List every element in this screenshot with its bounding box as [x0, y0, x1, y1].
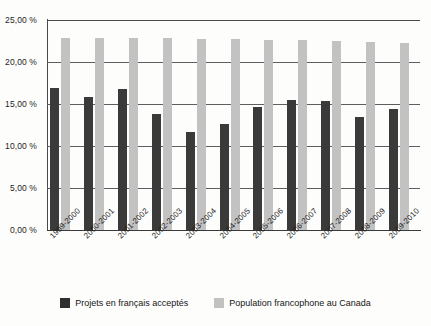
bar-group	[152, 20, 186, 230]
legend-item: Population francophone au Canada	[214, 298, 371, 308]
y-axis-tick-labels: 0,00 %5,00 %10,00 %15,00 %20,00 %25,00 %	[0, 0, 43, 326]
y-tick-label: 10,00 %	[5, 141, 37, 151]
bar-chart-figure: 0,00 %5,00 %10,00 %15,00 %20,00 %25,00 %…	[0, 0, 431, 326]
bar-group	[253, 20, 287, 230]
bar-group	[50, 20, 84, 230]
legend-label: Projets en français acceptés	[75, 298, 188, 308]
bar-group	[118, 20, 152, 230]
bar-population	[61, 38, 70, 230]
legend-label: Population francophone au Canada	[229, 298, 371, 308]
y-tick-label: 15,00 %	[5, 99, 37, 109]
bar-projets	[253, 107, 262, 230]
bar-population	[366, 42, 375, 230]
bar-population	[298, 40, 307, 230]
bar-group	[355, 20, 389, 230]
y-tick-label: 0,00 %	[10, 225, 37, 235]
bar-population	[163, 38, 172, 230]
bar-projets	[287, 100, 296, 230]
bar-projets	[220, 124, 229, 230]
bar-group	[389, 20, 423, 230]
bar-projets	[355, 117, 364, 230]
bar-group	[84, 20, 118, 230]
bar-population	[231, 39, 240, 230]
bar-population	[332, 41, 341, 230]
bar-population	[197, 39, 206, 230]
bar-projets	[186, 132, 195, 230]
legend-item: Projets en français acceptés	[60, 298, 188, 308]
bar-population	[400, 43, 409, 230]
bar-group	[287, 20, 321, 230]
plot-area	[47, 20, 420, 230]
x-axis-category-labels: 1999-20002000-20012001-20022002-20032003…	[47, 232, 420, 292]
y-tick-label: 5,00 %	[10, 183, 37, 193]
bar-projets	[389, 109, 398, 230]
bar-projets	[321, 101, 330, 230]
light-swatch-icon	[214, 298, 224, 308]
dark-swatch-icon	[60, 298, 70, 308]
bar-population	[129, 38, 138, 230]
bar-projets	[84, 97, 93, 230]
bar-projets	[118, 89, 127, 230]
bar-group	[186, 20, 220, 230]
bar-projets	[152, 114, 161, 230]
y-tick-label: 25,00 %	[5, 15, 37, 25]
bar-projets	[50, 88, 59, 230]
chart-legend: Projets en français acceptésPopulation f…	[0, 292, 431, 314]
y-tick-label: 20,00 %	[5, 57, 37, 67]
bar-group	[220, 20, 254, 230]
bar-population	[95, 38, 104, 230]
bar-population	[264, 40, 273, 230]
bar-group	[321, 20, 355, 230]
